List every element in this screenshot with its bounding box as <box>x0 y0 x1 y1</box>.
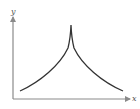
y-axis-label: y <box>11 8 16 16</box>
x-axis-label: x <box>132 95 137 103</box>
chart-canvas <box>0 0 140 109</box>
cusp-curve <box>20 25 123 91</box>
